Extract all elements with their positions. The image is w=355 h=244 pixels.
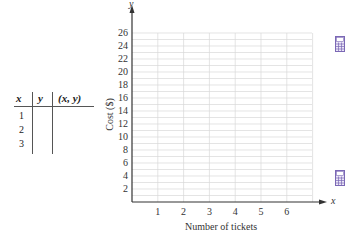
x-axis-arrow-icon xyxy=(319,200,327,205)
y-tick-label: 4 xyxy=(108,170,128,181)
x-axis-title: Number of tickets xyxy=(185,221,257,232)
y-tick-label: 22 xyxy=(108,53,128,64)
y-tick-label: 8 xyxy=(108,144,128,155)
y-tick-label: 26 xyxy=(108,27,128,38)
x-tick-label: 1 xyxy=(152,206,164,217)
y-tick-label: 20 xyxy=(108,66,128,77)
x-tick-label: 6 xyxy=(281,206,293,217)
x-tick-label: 5 xyxy=(255,206,267,217)
y-tick-label: 24 xyxy=(108,40,128,51)
x-axis-letter: x xyxy=(331,195,335,206)
y-tick-label: 6 xyxy=(108,157,128,168)
x-tick-label: 4 xyxy=(229,206,241,217)
x-tick-label: 3 xyxy=(203,206,215,217)
y-tick-label: 18 xyxy=(108,79,128,90)
calculator-icon[interactable] xyxy=(335,170,345,186)
y-axis-title: Cost ($) xyxy=(104,98,115,131)
calculator-icon[interactable] xyxy=(335,36,345,52)
y-axis-letter: y xyxy=(129,0,133,9)
y-tick-label: 10 xyxy=(108,131,128,142)
x-tick-label: 2 xyxy=(178,206,190,217)
y-tick-label: 2 xyxy=(108,183,128,194)
